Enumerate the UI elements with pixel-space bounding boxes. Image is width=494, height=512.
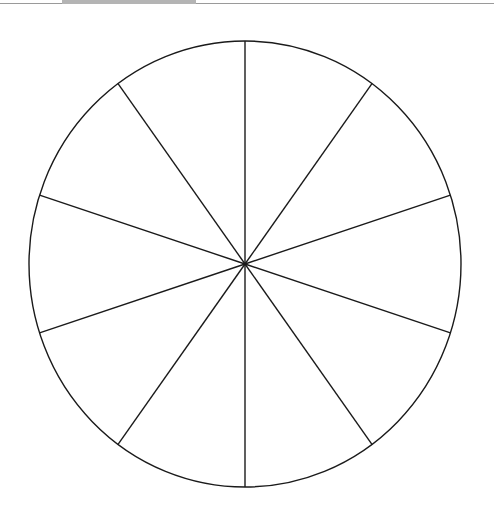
spoke-line <box>245 84 372 264</box>
spoke-line <box>245 264 372 444</box>
spoke-line <box>245 195 450 264</box>
spoke-line <box>118 264 245 444</box>
spoke-line <box>245 264 450 333</box>
spoke-line <box>40 264 245 333</box>
ten-segment-circle-diagram <box>0 0 494 512</box>
spokes-group <box>40 41 451 487</box>
spoke-line <box>118 84 245 264</box>
spoke-line <box>40 195 245 264</box>
